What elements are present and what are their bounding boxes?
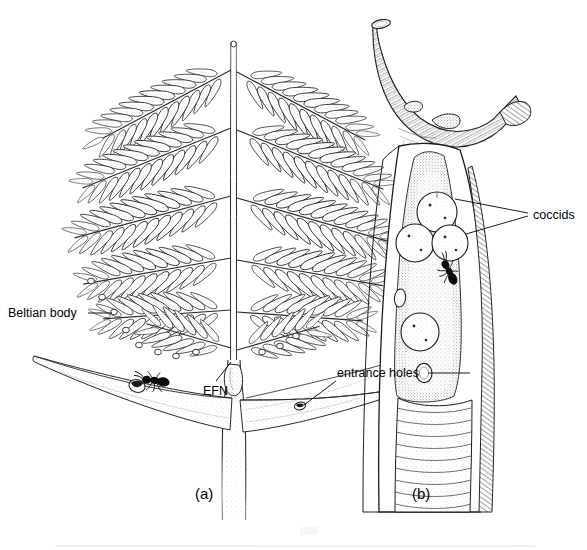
coccid: [396, 224, 434, 262]
coccids-label: coccids: [533, 208, 575, 222]
beltian-body-label: Beltian body: [8, 306, 78, 320]
entrance-holes-label: entrance holes: [337, 366, 419, 380]
acacia-ant-mutualism-figure: (a): [0, 0, 587, 550]
coccid: [432, 225, 468, 261]
figure-root: (a): [0, 0, 587, 550]
coccid: [401, 313, 439, 351]
efn-label: EFN: [203, 384, 228, 398]
panel-label-a: (a): [195, 485, 213, 502]
panel-label-b: (b): [412, 485, 430, 502]
